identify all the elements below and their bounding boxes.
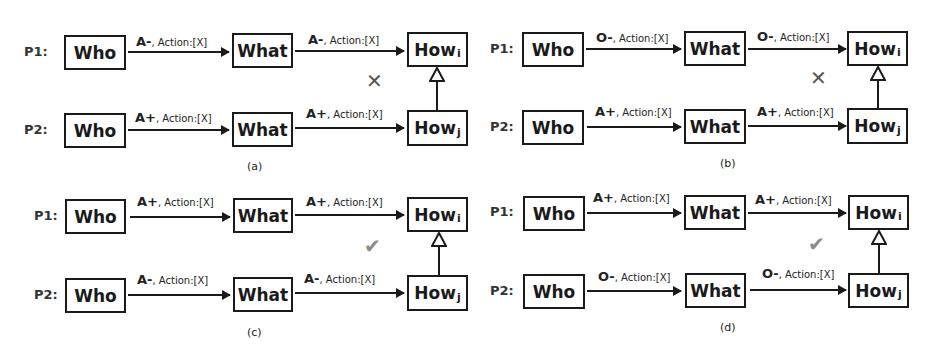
inheritance-arrowhead-icon	[429, 67, 445, 83]
panel-caption: (a)	[247, 160, 262, 173]
inheritance-line	[878, 243, 880, 273]
how-i-node: Howi	[848, 195, 909, 230]
arrow	[748, 48, 846, 50]
how-j-node: Howj	[407, 110, 468, 146]
what-node: What	[232, 112, 293, 147]
edge-label: A-, Action:[X]	[304, 271, 375, 286]
row-label-p2: P2:	[490, 119, 514, 134]
who-node: Who	[64, 35, 126, 70]
edge-label: A-, Action:[X]	[136, 34, 207, 49]
how-j-node: Howj	[848, 273, 909, 308]
inheritance-line	[438, 245, 440, 275]
how-j-node: Howj	[407, 275, 468, 311]
cross-icon: ✕	[366, 69, 383, 93]
what-node: What	[684, 195, 746, 230]
row-label-p2: P2:	[24, 122, 48, 137]
what-node: What	[685, 273, 746, 308]
inheritance-arrowhead-icon	[870, 66, 886, 82]
what-node: What	[232, 33, 293, 68]
check-icon: ✔	[808, 232, 825, 256]
panel-caption: (b)	[720, 157, 736, 170]
edge-label: A+, Action:[X]	[137, 194, 214, 209]
panel-caption: (c)	[247, 326, 262, 339]
what-node: What	[684, 31, 746, 66]
edge-label: A-, Action:[X]	[308, 32, 379, 47]
arrow	[586, 48, 681, 50]
cross-icon: ✕	[810, 66, 827, 90]
row-label-p1: P1:	[34, 208, 58, 223]
who-node: Who	[523, 196, 585, 231]
row-label-p1: P1:	[490, 41, 514, 56]
arrow	[748, 212, 846, 214]
arrow	[295, 127, 404, 129]
edge-label: A+, Action:[X]	[595, 104, 672, 119]
arrow	[130, 216, 230, 218]
inheritance-line	[436, 80, 438, 110]
edge-label: O-, Action:[X]	[598, 269, 670, 284]
arrow	[587, 290, 681, 292]
edge-label: A+, Action:[X]	[593, 190, 670, 205]
edge-label: O-, Action:[X]	[596, 30, 668, 45]
edge-label: A+, Action:[X]	[757, 104, 834, 119]
edge-label: A+, Action:[X]	[306, 194, 383, 209]
edge-label: O-, Action:[X]	[757, 29, 829, 44]
row-label-p1: P1:	[24, 44, 48, 59]
panel-d: P1: Who A+, Action:[X] What A+, Action:[…	[470, 180, 940, 357]
who-node: Who	[522, 110, 584, 145]
edge-label: O-, Action:[X]	[762, 266, 834, 281]
arrow	[587, 126, 681, 128]
arrow	[128, 294, 230, 296]
inheritance-arrowhead-icon	[871, 230, 887, 246]
edge-label: A-, Action:[X]	[137, 272, 208, 287]
check-icon: ✔	[364, 234, 381, 258]
arrow	[295, 50, 404, 52]
arrow	[748, 125, 846, 127]
arrow	[587, 212, 681, 214]
arrow	[128, 51, 229, 53]
who-node: Who	[65, 278, 126, 313]
how-i-node: Howi	[407, 32, 468, 67]
panel-c: P1: Who A+, Action:[X] What A+, Action:[…	[0, 180, 470, 357]
row-label-p1: P1:	[490, 204, 514, 219]
panel-a: P1: Who A-, Action:[X] What A-, Action:[…	[0, 0, 470, 178]
edge-label: A+, Action:[X]	[306, 106, 383, 121]
edge-label: A+, Action:[X]	[755, 192, 832, 207]
row-label-p2: P2:	[490, 283, 514, 298]
who-node: Who	[64, 113, 126, 148]
panel-b: P1: Who O-, Action:[X] What O-, Action:[…	[470, 0, 940, 178]
what-node: What	[233, 198, 293, 233]
what-node: What	[684, 109, 746, 144]
inheritance-arrowhead-icon	[431, 232, 447, 248]
what-node: What	[233, 277, 293, 312]
how-i-node: Howi	[847, 31, 908, 66]
row-label-p2: P2:	[34, 287, 58, 302]
how-j-node: Howj	[847, 108, 908, 144]
arrow	[295, 214, 404, 216]
arrow	[750, 289, 846, 291]
who-node: Who	[65, 199, 126, 234]
who-node: Who	[522, 32, 584, 67]
arrow	[295, 292, 404, 294]
who-node: Who	[523, 274, 585, 309]
panel-caption: (d)	[720, 321, 736, 334]
how-i-node: Howi	[407, 197, 468, 232]
inheritance-line	[877, 79, 879, 108]
edge-label: A+, Action:[X]	[135, 110, 212, 125]
arrow	[128, 129, 229, 131]
